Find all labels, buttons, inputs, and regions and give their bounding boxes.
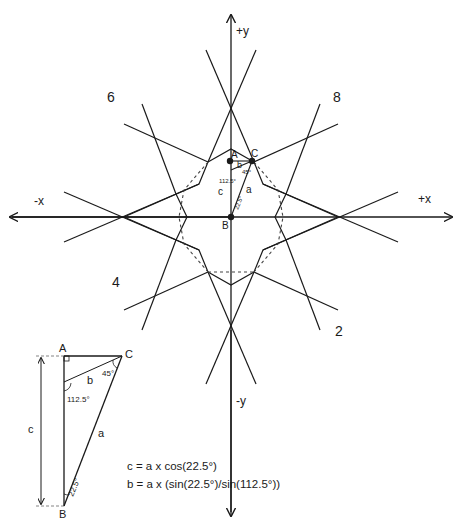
region-label-2: 2	[335, 323, 343, 339]
angle-arc-C	[113, 360, 117, 368]
label-pos-y: +y	[236, 24, 249, 38]
detail-label-22: 22.5°	[67, 477, 82, 498]
center-label-C: C	[251, 148, 258, 159]
angle-arc-112	[64, 383, 71, 391]
axes	[10, 15, 452, 516]
star-diagram: +y -y +x -x 6 8 4 2 A C B b a c 112.5° 4…	[0, 0, 464, 530]
region-label-4: 4	[112, 274, 120, 290]
center-label-22: 22.5°	[233, 195, 244, 211]
center-label-c: c	[218, 186, 223, 197]
detail-label-45: 45°	[102, 369, 114, 378]
detail-label-b: b	[87, 374, 93, 386]
formula-c: c = a x cos(22.5°)	[127, 460, 217, 472]
right-angle-mark	[64, 356, 69, 361]
detail-label-B: B	[59, 508, 66, 520]
point-B	[228, 214, 234, 220]
center-label-a: a	[246, 184, 252, 195]
detail-label-A: A	[59, 342, 67, 354]
detail-label-a: a	[98, 427, 105, 439]
detail-label-c: c	[28, 423, 34, 435]
c-dimension	[36, 356, 64, 506]
detail-label-C: C	[125, 348, 133, 360]
center-label-A: A	[231, 149, 238, 160]
center-label-45: 45°	[242, 169, 252, 175]
center-label-B: B	[222, 220, 229, 231]
label-neg-x: -x	[34, 194, 44, 208]
label-neg-y: -y	[236, 394, 246, 408]
formula-b: b = a x (sin(22.5°)/sin(112.5°))	[127, 478, 280, 490]
region-label-8: 8	[333, 89, 341, 105]
detail-label-112: 112.5°	[67, 395, 90, 404]
center-label-112: 112.5°	[219, 178, 237, 184]
label-pos-x: +x	[418, 192, 431, 206]
region-label-6: 6	[107, 89, 115, 105]
